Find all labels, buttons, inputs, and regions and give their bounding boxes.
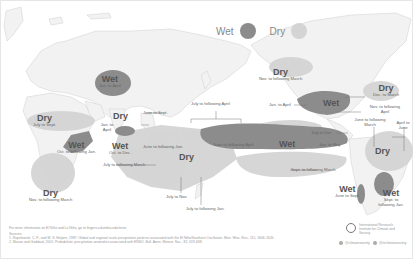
region-australia-period: July to Nov. — [166, 195, 188, 200]
region-maritime-period: Jan. to April — [97, 123, 117, 133]
legend-dry-swatch — [291, 23, 307, 39]
region-central-pacific-period: June to following April — [213, 143, 254, 148]
region-hawaii-period: July to Dec. — [311, 131, 333, 136]
map-legend: Wet Dry — [216, 23, 307, 39]
region-northern-south-america-dry: Dry — [375, 147, 390, 156]
legend-wet-label: Wet — [216, 26, 234, 37]
region-indian-ocean-period: July to following March — [103, 163, 145, 168]
footer-org-name: International Research Institute for Cli… — [359, 223, 399, 235]
region-southeast-south-america: Wet Sept. to following Jan. — [377, 189, 405, 208]
region-south-pacific-period: Sept. to following March — [291, 168, 336, 173]
region-india: Wet Jan. to April — [99, 75, 121, 89]
region-central-pacific-wet: Wet — [279, 140, 295, 149]
figure-footer: For more information on El Niño and La N… — [1, 213, 413, 259]
legend-dry-label: Dry — [270, 26, 286, 37]
region-great-lakes: Dry Dec. to March — [373, 84, 399, 98]
region-west-africa: Dry July to Sept. — [33, 114, 56, 128]
region-central-pacific-bracket-period: July to following April — [191, 102, 230, 107]
region-caribbean-period: April to June — [394, 121, 412, 131]
region-us-southeast-period: Nov. to following April — [367, 105, 403, 115]
legend-wet-swatch — [240, 23, 256, 39]
region-se-asia-dry: Dry — [113, 112, 128, 121]
region-east-africa: Wet Oct. to following Jan. — [57, 141, 96, 155]
region-sri-lanka: Wet Oct. to Dec. — [109, 142, 131, 156]
region-alaska: Dry Nov. to following March — [259, 68, 302, 82]
twitter-icon — [339, 241, 343, 245]
footer-social-2[interactable]: @iriclimatesociety — [379, 241, 406, 245]
region-central-america-period: June to following March — [353, 118, 387, 128]
world-map: Wet Dry Wet Jan. to April Dry July to Se… — [1, 1, 413, 216]
region-southern-africa: Dry Nov. to following March — [29, 189, 72, 203]
footer-source-2: 2. Mason and Goddard, 2001: Probabilisti… — [9, 240, 203, 244]
iri-logo-icon — [346, 223, 356, 233]
region-se-asia-period: June to Sept. — [143, 111, 168, 116]
region-us-south-period: Jan. to April — [269, 103, 291, 108]
footer-social-1[interactable]: @climatesociety — [345, 241, 370, 245]
footer-note: For more information on El Niño and La N… — [9, 226, 126, 230]
enso-precipitation-map-figure: Wet Dry Wet Jan. to April Dry July to Se… — [0, 0, 413, 259]
region-indonesia-dry: Dry — [179, 153, 194, 162]
region-australia-east-period: July to following Jan. — [186, 207, 225, 212]
facebook-icon — [373, 241, 377, 245]
region-east-pacific-period: Jan. to May — [319, 143, 341, 148]
region-chile: Wet June to Sept. — [335, 185, 360, 199]
region-indonesia-period: June to following Jan. — [143, 145, 183, 150]
region-us-south-wet: Wet — [323, 99, 339, 108]
